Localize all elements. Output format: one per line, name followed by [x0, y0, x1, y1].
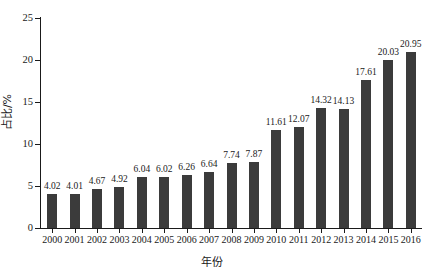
plot-area	[41, 18, 422, 228]
y-tick-label: 25	[0, 13, 33, 24]
bar	[339, 109, 349, 228]
x-tick-mark	[344, 229, 345, 233]
x-axis-title: 年份	[0, 253, 424, 269]
bar-value-label: 14.13	[328, 97, 360, 107]
bar-value-label: 7.87	[238, 150, 270, 160]
bar	[383, 60, 393, 228]
x-tick-mark	[411, 229, 412, 233]
x-tick-mark	[232, 229, 233, 233]
bar	[249, 162, 259, 228]
y-tick-label: 20	[0, 55, 33, 66]
x-tick-mark	[187, 229, 188, 233]
bar	[227, 163, 237, 228]
x-tick-label: 2016	[398, 234, 424, 245]
bar	[361, 80, 371, 228]
bar	[114, 187, 124, 228]
x-tick-mark	[164, 229, 165, 233]
x-tick-mark	[142, 229, 143, 233]
bar-value-label: 20.95	[395, 40, 424, 50]
bar	[137, 177, 147, 228]
x-tick-mark	[97, 229, 98, 233]
bar	[47, 194, 57, 228]
bar	[316, 108, 326, 228]
x-tick-mark	[52, 229, 53, 233]
x-tick-mark	[276, 229, 277, 233]
x-tick-mark	[254, 229, 255, 233]
bar-value-label: 6.64	[193, 160, 225, 170]
x-tick-mark	[209, 229, 210, 233]
bar	[406, 52, 416, 228]
x-tick-mark	[299, 229, 300, 233]
x-tick-mark	[321, 229, 322, 233]
x-tick-mark	[119, 229, 120, 233]
bar	[70, 194, 80, 228]
bar-value-label: 12.07	[283, 115, 315, 125]
bar-value-label: 17.61	[350, 68, 382, 78]
y-tick-label: 5	[0, 181, 33, 192]
bar	[182, 175, 192, 228]
bar	[159, 177, 169, 228]
y-tick-mark	[35, 228, 41, 229]
bar-value-label: 4.92	[103, 175, 135, 185]
x-tick-mark	[388, 229, 389, 233]
y-axis-title: 占比/%	[0, 80, 14, 144]
bar	[271, 130, 281, 228]
bar	[92, 189, 102, 228]
bar-chart: 0510152025 20002001200220032004200520062…	[0, 0, 424, 276]
bar	[294, 127, 304, 228]
y-tick-label: 0	[0, 223, 33, 234]
x-tick-mark	[366, 229, 367, 233]
bar	[204, 172, 214, 228]
x-tick-mark	[75, 229, 76, 233]
